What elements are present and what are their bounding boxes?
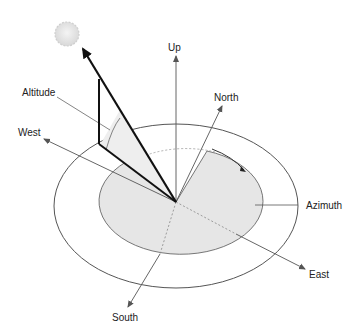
azimuth-disc xyxy=(99,151,263,254)
label-east: East xyxy=(309,270,329,280)
label-north: North xyxy=(214,93,238,103)
east-axis xyxy=(236,234,305,269)
label-south: South xyxy=(112,313,138,323)
altitude-leader xyxy=(57,97,110,130)
label-west: West xyxy=(18,128,41,138)
sun-icon xyxy=(55,22,79,46)
label-azimuth: Azimuth xyxy=(306,201,342,211)
south-axis xyxy=(128,254,160,307)
label-altitude: Altitude xyxy=(22,88,55,98)
label-up: Up xyxy=(168,43,181,53)
